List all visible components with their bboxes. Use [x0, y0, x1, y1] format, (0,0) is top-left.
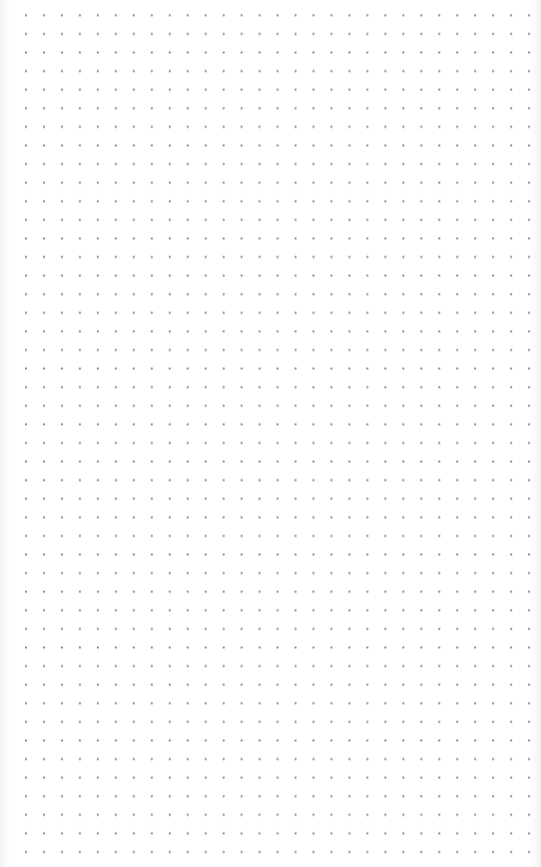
dot-grid-canvas[interactable] [0, 0, 541, 867]
dot-grid-pattern [17, 6, 538, 862]
left-edge-shadow [0, 0, 10, 867]
